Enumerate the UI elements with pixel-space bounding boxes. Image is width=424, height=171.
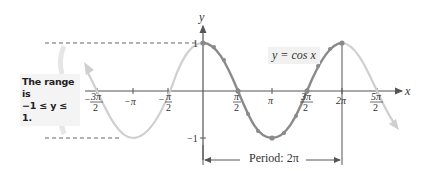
range-callout-up-arrow [60, 46, 64, 74]
svg-text:2: 2 [234, 102, 239, 113]
x-tick-label-5pi-2: 5π 2 [370, 91, 383, 113]
x-tick-label-pi: π [268, 95, 274, 106]
svg-text:−: − [158, 94, 165, 105]
y-tick-label-1: 1 [193, 38, 198, 49]
x-tick-label-neg-pi-2: − π 2 [158, 91, 172, 113]
svg-text:5π: 5π [371, 91, 382, 102]
x-tick-label-neg-3pi-2: − 3π 2 [84, 91, 103, 113]
x-tick-label-3pi-2: 3π 2 [300, 91, 313, 113]
svg-text:2: 2 [303, 102, 308, 113]
equation-label: y = cos x [268, 47, 320, 64]
x-axis-label: x [404, 84, 411, 98]
x-tick-label-2pi: 2π [336, 95, 347, 106]
y-tick-label-neg1: −1 [187, 133, 198, 144]
svg-text:2: 2 [166, 102, 171, 113]
svg-text:−: − [84, 94, 91, 105]
y-axis-label: y [198, 10, 205, 24]
svg-text:2: 2 [373, 102, 378, 113]
cosine-extension-right [342, 43, 395, 124]
svg-text:π: π [166, 91, 172, 102]
range-annotation-line2: −1 ≤ y ≤ 1. [22, 100, 78, 124]
svg-text:3π: 3π [90, 91, 102, 102]
left-arrowhead [84, 62, 94, 75]
period-label: Period: 2π [246, 151, 302, 166]
x-tick-label-neg-pi: −π [124, 96, 137, 107]
right-arrowhead [389, 119, 399, 130]
svg-text:3π: 3π [300, 91, 312, 102]
svg-text:2: 2 [93, 102, 98, 113]
range-annotation-line1: The range is [22, 76, 78, 100]
range-annotation: The range is −1 ≤ y ≤ 1. [20, 74, 80, 126]
